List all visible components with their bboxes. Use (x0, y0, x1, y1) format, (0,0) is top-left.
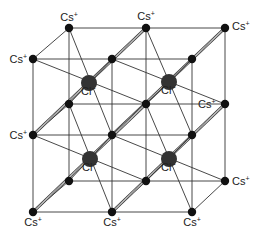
cs-ion (142, 24, 150, 32)
cl-label: Cl− (161, 84, 175, 96)
cs-label: Cs+ (137, 10, 155, 22)
cs-ion (108, 131, 116, 139)
cs-label: Cs+ (9, 129, 27, 141)
charge-superscript: + (117, 216, 121, 223)
charge-superscript: − (91, 85, 95, 92)
lattice-line (33, 28, 69, 59)
cs-ion (65, 177, 73, 185)
charge-superscript: + (74, 11, 78, 18)
cs-label: Cs+ (232, 175, 250, 187)
charge-superscript: + (23, 53, 27, 60)
cl-label: Cl− (81, 85, 95, 97)
bonds (33, 28, 225, 212)
cs-ion (221, 24, 229, 32)
charge-superscript: + (245, 175, 249, 182)
cs-ion (65, 24, 73, 32)
cs-ion (142, 100, 150, 108)
lattice-line (192, 181, 225, 212)
cl-label: Cl− (161, 161, 175, 173)
charge-superscript: + (245, 20, 249, 27)
cs-ion (29, 208, 37, 216)
cs-ion (221, 100, 229, 108)
cs-ion (29, 131, 37, 139)
cs-label: Cs+ (232, 20, 250, 32)
cs-label: Cs+ (60, 11, 78, 23)
lattice-svg: Cl−Cl−Cl−Cl−Cs+Cs+Cs+Cs+Cs+Cs+Cs+Cs+Cs+C… (0, 0, 257, 237)
cs-label: Cs+ (183, 216, 201, 228)
cs-ion (108, 55, 116, 63)
cs-ion (188, 208, 196, 216)
cs-label: Cs+ (198, 98, 216, 110)
cs-ion (142, 177, 150, 185)
cs-label: Cs+ (9, 53, 27, 65)
cs-ion (108, 208, 116, 216)
charge-superscript: + (23, 129, 27, 136)
cs-ion (65, 100, 73, 108)
charge-superscript: + (38, 216, 42, 223)
cs-label: Cs+ (24, 216, 42, 228)
cs-ion (188, 55, 196, 63)
cs-label: Cs+ (103, 216, 121, 228)
charge-superscript: − (171, 161, 175, 168)
charge-superscript: + (197, 216, 201, 223)
cs-ion (221, 177, 229, 185)
cs-ion (29, 55, 37, 63)
charge-superscript: + (151, 10, 155, 17)
cs-ion (188, 131, 196, 139)
cl-label: Cl− (82, 161, 96, 173)
cscl-lattice-diagram: Cl−Cl−Cl−Cl−Cs+Cs+Cs+Cs+Cs+Cs+Cs+Cs+Cs+C… (0, 0, 257, 237)
charge-superscript: − (171, 84, 175, 91)
charge-superscript: + (211, 98, 215, 105)
charge-superscript: − (92, 161, 96, 168)
